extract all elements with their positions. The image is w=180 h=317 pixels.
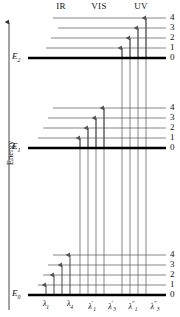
lambda-dprime-3: λ″3 xyxy=(144,299,166,312)
electronic-state-lines xyxy=(28,58,166,295)
vib-number-E1-v0: 0 xyxy=(170,142,175,152)
header-ir: IR xyxy=(50,1,72,11)
vib-number-E1-v4: 4 xyxy=(170,102,175,112)
vib-number-E0-v0: 0 xyxy=(170,289,175,299)
vib-number-E1-v2: 2 xyxy=(170,122,175,132)
vib-number-E0-v3: 3 xyxy=(170,259,175,269)
header-vis: VIS xyxy=(88,1,110,11)
vib-number-E2-v2: 2 xyxy=(170,32,175,42)
vib-number-E2-v1: 1 xyxy=(170,42,175,52)
energy-level-diagram xyxy=(0,0,180,317)
lambda-dprime-1: λ″1 xyxy=(122,299,144,312)
lambda-4: λ4 xyxy=(59,299,81,310)
state-label-E1: E1 xyxy=(12,141,21,153)
long-transition-arrows xyxy=(80,18,146,295)
vib-number-E1-v1: 1 xyxy=(170,132,175,142)
vib-number-E0-v2: 2 xyxy=(170,269,175,279)
state-label-E0: E0 xyxy=(12,288,21,300)
vib-number-E0-v4: 4 xyxy=(170,249,175,259)
vib-number-E1-v3: 3 xyxy=(170,112,175,122)
vib-number-E2-v3: 3 xyxy=(170,22,175,32)
lambda-prime-3: λ′3 xyxy=(101,299,123,312)
header-uv: UV xyxy=(130,1,152,11)
lambda-prime-1: λ′1 xyxy=(81,299,103,312)
vib-number-E2-v4: 4 xyxy=(170,12,175,22)
vib-number-E2-v0: 0 xyxy=(170,52,175,62)
vib-number-E0-v1: 1 xyxy=(170,279,175,289)
lambda-1: λ1 xyxy=(35,299,57,310)
state-label-E2: E2 xyxy=(12,51,21,63)
